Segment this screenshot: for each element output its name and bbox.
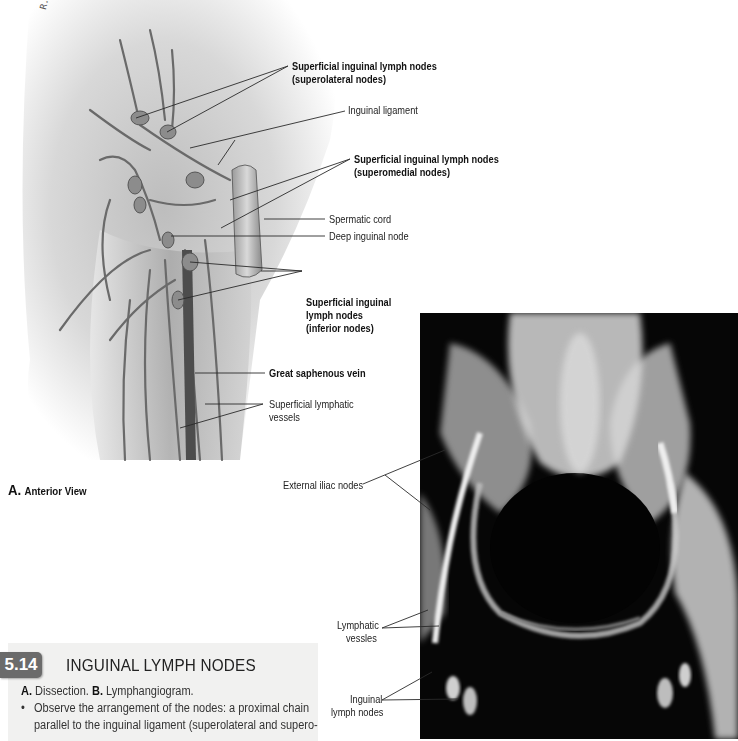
label-lymphatic-vessels-line2: vessles	[346, 632, 377, 644]
panel-a-label: A. Anterior View	[8, 481, 87, 498]
label-superomedial-nodes-line2: (superomedial nodes)	[354, 166, 450, 178]
label-spermatic-cord: Spermatic cord	[329, 213, 391, 225]
caption-bullet-icon: •	[21, 701, 25, 715]
label-inguinal-ligament: Inguinal ligament	[348, 104, 418, 116]
label-superomedial-nodes-line1: Superficial inguinal lymph nodes	[354, 153, 499, 165]
caption-bullet-line1: Observe the arrangement of the nodes: a …	[34, 701, 309, 715]
panel-a-letter: A.	[8, 481, 21, 498]
label-inferior-nodes-line1: Superficial inguinal	[306, 296, 391, 308]
figure-title: INGUINAL LYMPH NODES	[66, 656, 256, 676]
label-superficial-lymphatic-vessels-line1: Superficial lymphatic	[269, 398, 354, 410]
caption-b-text: Lymphangiogram.	[106, 684, 194, 698]
label-inferior-nodes-line3: (inferior nodes)	[306, 322, 374, 334]
label-lymphatic-vessels-line1: Lymphatic	[337, 619, 379, 631]
caption-a-text: Dissection.	[35, 684, 89, 698]
caption-bullet-line2: parallel to the inguinal ligament (super…	[34, 718, 318, 732]
label-inferior-nodes-line2: lymph nodes	[306, 309, 363, 321]
label-inguinal-lymph-nodes-line1: Inguinal	[350, 693, 382, 705]
lymphangiogram-xray	[420, 313, 738, 739]
label-deep-inguinal-node: Deep inguinal node	[329, 230, 409, 242]
label-superficial-lymphatic-vessels-line2: vessels	[269, 411, 300, 423]
label-external-iliac-nodes: External iliac nodes	[283, 479, 363, 491]
figure-number-badge: 5.14	[0, 652, 42, 678]
caption-panels-line: A. Dissection. B. Lymphangiogram.	[21, 684, 194, 698]
label-superolateral-nodes-line1: Superficial inguinal lymph nodes	[292, 60, 437, 72]
label-inguinal-lymph-nodes-line2: lymph nodes	[331, 706, 383, 718]
label-superolateral-nodes-line2: (superolateral nodes)	[292, 73, 386, 85]
label-great-saphenous-vein: Great saphenous vein	[269, 367, 366, 379]
caption-a-label: A.	[21, 684, 32, 698]
caption-b-label: B.	[92, 684, 103, 698]
panel-a-view: Anterior View	[24, 485, 86, 497]
